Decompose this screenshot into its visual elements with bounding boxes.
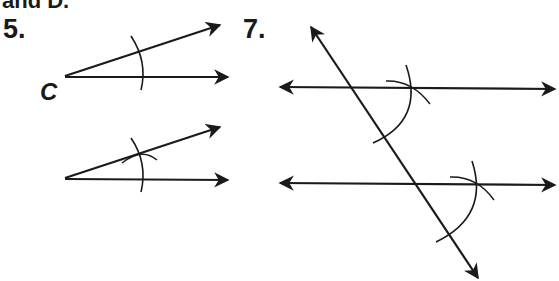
given-line — [280, 87, 555, 89]
lower-compass-arc — [436, 161, 477, 242]
upper-intersect-arc — [386, 81, 430, 104]
lower-ray-copy — [65, 179, 228, 180]
transversal-line — [311, 27, 478, 278]
compass-arc — [131, 36, 143, 90]
problem-7-construction — [280, 27, 555, 278]
problem-5-copied-angle — [65, 127, 228, 192]
compass-arc-copy — [131, 138, 143, 192]
problem-5-original-angle — [65, 25, 228, 90]
parallel-line — [280, 183, 555, 185]
construction-diagrams — [0, 0, 559, 281]
lower-intersect-arc — [450, 177, 494, 200]
upper-compass-arc — [373, 65, 411, 143]
